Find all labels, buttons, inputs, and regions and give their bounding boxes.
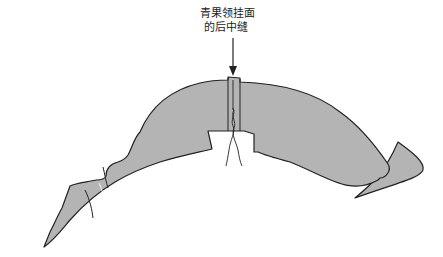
collar-diagram bbox=[0, 0, 443, 257]
collar-body bbox=[44, 77, 389, 247]
pointer-arrow bbox=[229, 38, 237, 76]
